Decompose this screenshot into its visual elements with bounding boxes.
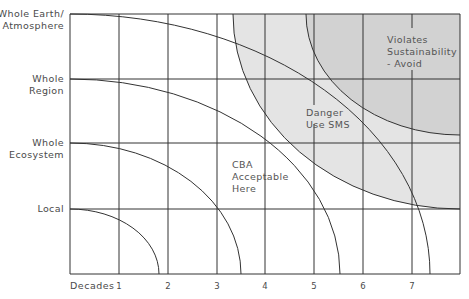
violates-line3: - Avoid [387, 58, 457, 70]
violates-line1: Violates [387, 34, 457, 46]
y-label-local: Local [37, 203, 64, 215]
x-tick-3: 3 [214, 281, 219, 291]
y-label-region-line2: Region [29, 85, 64, 97]
y-label-region-line1: Whole [29, 73, 64, 85]
x-tick-6: 6 [360, 281, 365, 291]
violates-line2: Sustainability [387, 46, 457, 58]
cba-line2: Acceptable [232, 171, 289, 183]
x-tick-1: 1 [116, 281, 121, 291]
y-label-ecosystem-line1: Whole [9, 137, 64, 149]
x-axis-title: Decades [70, 280, 115, 291]
y-label-region: Whole Region [29, 73, 64, 97]
x-tick-7: 7 [409, 281, 414, 291]
y-label-earth: Whole Earth/ Atmosphere [0, 8, 64, 32]
danger-line2: Use SMS [306, 119, 350, 131]
y-label-earth-line1: Whole Earth/ [0, 8, 64, 20]
y-label-ecosystem: Whole Ecosystem [9, 137, 64, 161]
x-tick-2: 2 [165, 281, 170, 291]
x-tick-5: 5 [311, 281, 316, 291]
danger-zone-label: Danger Use SMS [306, 107, 350, 131]
curve-local [70, 209, 159, 274]
x-tick-4: 4 [262, 281, 267, 291]
violates-zone-label: Violates Sustainability - Avoid [387, 34, 457, 70]
cba-line1: CBA [232, 159, 289, 171]
y-label-ecosystem-line2: Ecosystem [9, 149, 64, 161]
danger-line1: Danger [306, 107, 350, 119]
cba-line3: Here [232, 183, 289, 195]
y-label-local-line1: Local [37, 203, 64, 215]
cba-zone-label: CBA Acceptable Here [232, 159, 289, 195]
y-label-earth-line2: Atmosphere [0, 20, 64, 32]
